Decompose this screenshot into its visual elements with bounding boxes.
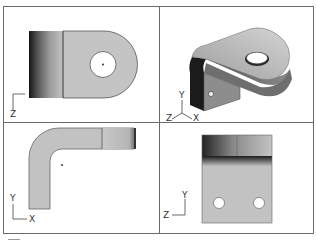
multiview-frame: Z: [3, 6, 314, 234]
axis-label-x: X: [193, 114, 199, 123]
front-view-drawing: [4, 123, 159, 235]
top-view-drawing: [4, 7, 159, 122]
axis-label-z: Z: [166, 114, 172, 123]
axis-label-y: Y: [182, 191, 188, 200]
axis-label-y: Y: [179, 91, 185, 100]
axis-label-x: X: [29, 215, 35, 224]
top-view: Z: [4, 7, 159, 122]
corner-mark: [8, 239, 20, 240]
isometric-drawing: [160, 7, 315, 122]
isometric-view: Y Z X: [160, 7, 315, 122]
front-view: Y X: [4, 123, 159, 235]
side-view-drawing: [160, 123, 315, 235]
axis-label-z: Z: [10, 110, 16, 119]
axis-label-z: Z: [163, 211, 169, 220]
axis-label-y: Y: [10, 194, 16, 203]
side-view: Y Z: [160, 123, 315, 235]
